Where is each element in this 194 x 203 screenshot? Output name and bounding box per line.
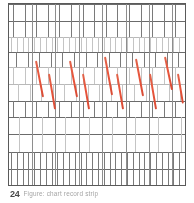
tick-mark <box>71 5 72 21</box>
tick-mark <box>23 169 24 186</box>
tick-mark <box>81 37 82 52</box>
gridline-horizontal <box>9 152 185 153</box>
tick-mark <box>28 152 29 169</box>
tick-mark <box>181 134 182 152</box>
tick-mark <box>86 52 87 67</box>
scan-sheet: 24 Figure: chart record strip <box>0 0 194 203</box>
tick-mark <box>135 117 136 134</box>
tick-mark <box>139 37 140 52</box>
tick-mark <box>69 169 70 186</box>
tick-mark <box>63 169 64 186</box>
tick-mark <box>141 5 142 21</box>
tick-mark <box>173 37 174 52</box>
tick-mark <box>115 152 116 169</box>
tick-mark <box>141 21 142 37</box>
tick-mark <box>141 67 142 84</box>
tick-mark <box>46 152 47 169</box>
tick-mark <box>150 169 151 186</box>
tick-mark <box>98 37 99 52</box>
tick-mark <box>57 169 58 186</box>
tick-mark <box>13 101 14 117</box>
tick-mark <box>133 169 134 186</box>
tick-mark <box>34 37 35 52</box>
tick-mark <box>42 134 43 152</box>
tick-mark <box>97 52 98 67</box>
tick-mark <box>162 37 163 52</box>
tick-mark <box>28 169 29 186</box>
tick-mark <box>17 169 18 186</box>
tick-mark <box>39 52 40 67</box>
tick-mark <box>112 117 113 134</box>
tick-mark <box>109 52 110 67</box>
tick-mark <box>25 21 26 37</box>
tick-mark <box>164 21 165 37</box>
tick-mark <box>156 169 157 186</box>
tick-mark <box>150 152 151 169</box>
tick-mark <box>75 169 76 186</box>
tick-mark <box>106 5 107 21</box>
tick-mark <box>127 152 128 169</box>
tick-mark <box>28 37 29 52</box>
tick-mark <box>92 152 93 169</box>
tick-mark <box>75 37 76 52</box>
tick-mark <box>52 152 53 169</box>
tick-mark <box>92 169 93 186</box>
tick-mark <box>71 101 72 117</box>
tick-mark <box>115 169 116 186</box>
tick-mark <box>106 101 107 117</box>
tick-mark <box>150 37 151 52</box>
tick-mark <box>158 134 159 152</box>
tick-mark <box>110 37 111 52</box>
tick-mark <box>59 5 60 21</box>
tick-mark <box>175 67 176 84</box>
tick-mark <box>152 21 153 37</box>
tick-mark <box>144 169 145 186</box>
tick-mark <box>48 21 49 37</box>
tick-mark <box>162 152 163 169</box>
tick-mark <box>36 21 37 37</box>
tick-mark <box>162 169 163 186</box>
tick-mark <box>98 169 99 186</box>
tick-mark <box>36 5 37 21</box>
gridline-horizontal <box>9 37 185 38</box>
chart-frame <box>8 3 186 186</box>
tick-mark <box>152 67 153 84</box>
tick-mark <box>175 5 176 21</box>
tick-mark <box>139 169 140 186</box>
tick-mark <box>25 67 26 84</box>
tick-mark <box>99 84 100 101</box>
caption-text: Figure: chart record strip <box>23 189 98 199</box>
tick-mark <box>69 152 70 169</box>
tick-mark <box>115 37 116 52</box>
tick-mark <box>179 169 180 186</box>
event-mark <box>135 59 144 96</box>
tick-mark <box>51 52 52 67</box>
tick-mark <box>88 84 89 101</box>
tick-mark <box>74 52 75 67</box>
tick-mark <box>121 152 122 169</box>
tick-mark <box>112 134 113 152</box>
tick-mark <box>175 101 176 117</box>
tick-mark <box>86 169 87 186</box>
tick-mark <box>25 5 26 21</box>
tick-mark <box>156 37 157 52</box>
tick-mark <box>40 37 41 52</box>
tick-mark <box>117 101 118 117</box>
tick-mark <box>81 152 82 169</box>
tick-mark <box>164 5 165 21</box>
event-mark <box>177 74 184 104</box>
tick-mark <box>104 37 105 52</box>
tick-mark <box>122 84 123 101</box>
tick-mark <box>11 169 12 186</box>
tick-mark <box>110 169 111 186</box>
tick-mark <box>132 52 133 67</box>
tick-mark <box>129 101 130 117</box>
tick-mark <box>86 152 87 169</box>
tick-mark <box>98 152 99 169</box>
tick-mark <box>17 152 18 169</box>
tick-mark <box>63 152 64 169</box>
tick-mark <box>52 169 53 186</box>
tick-mark <box>144 152 145 169</box>
tick-mark <box>69 37 70 52</box>
tick-mark <box>75 152 76 169</box>
